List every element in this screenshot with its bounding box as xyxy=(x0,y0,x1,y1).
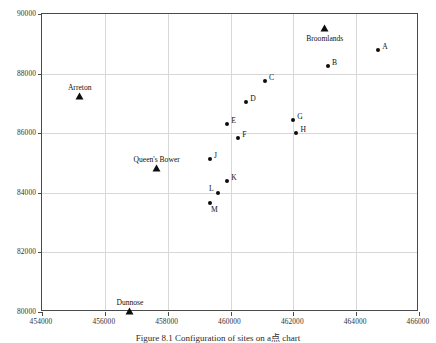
y-axis-tick-label: 86000 xyxy=(0,128,36,137)
y-axis-tick xyxy=(38,312,42,313)
y-axis-tick xyxy=(38,74,42,75)
data-point-label-L: L xyxy=(209,184,214,193)
x-axis-tick-label: 466000 xyxy=(388,317,436,326)
data-point-K xyxy=(225,179,229,183)
x-axis-tick xyxy=(356,312,357,316)
gridline-horizontal xyxy=(42,74,417,75)
figure-caption: Figure 8.1 Configuration of sites on a点 … xyxy=(0,331,436,343)
x-axis-tick-label: 460000 xyxy=(200,317,260,326)
data-point-F xyxy=(236,136,240,140)
y-axis-tick xyxy=(38,252,42,253)
y-axis-tick-label: 80000 xyxy=(0,307,36,316)
data-point-label-K: K xyxy=(231,173,236,182)
x-axis-tick xyxy=(168,312,169,316)
settlement-label-queen-s-bower: Queen's Bower xyxy=(134,155,180,164)
data-point-C xyxy=(263,79,267,83)
x-axis-tick-label: 456000 xyxy=(74,317,134,326)
data-point-H xyxy=(294,131,298,135)
data-point-label-F: F xyxy=(242,130,246,139)
settlement-label-arreton: Arreton xyxy=(68,83,92,92)
data-point-label-B: B xyxy=(332,58,337,67)
x-axis-tick xyxy=(105,312,106,316)
gridline-vertical xyxy=(231,14,232,310)
data-point-E xyxy=(225,122,229,126)
data-point-label-M: M xyxy=(211,205,218,214)
data-point-label-H: H xyxy=(300,125,305,134)
plot-area: ABCDEFGHJKLMArretonBroomlandsQueen's Bow… xyxy=(41,13,418,311)
data-point-D xyxy=(244,100,248,104)
x-axis-tick-label: 458000 xyxy=(137,317,197,326)
y-axis-tick xyxy=(38,14,42,15)
data-point-L xyxy=(216,191,220,195)
x-axis-tick-label: 462000 xyxy=(262,317,322,326)
data-point-label-J: J xyxy=(214,151,217,160)
figure-scatter-plot: ABCDEFGHJKLMArretonBroomlandsQueen's Bow… xyxy=(0,0,436,343)
data-point-label-G: G xyxy=(297,112,302,121)
gridline-vertical xyxy=(105,14,106,310)
data-point-B xyxy=(326,64,330,68)
gridline-horizontal xyxy=(42,193,417,194)
settlement-marker-broomlands xyxy=(320,24,328,31)
y-axis-tick xyxy=(38,193,42,194)
settlement-marker-queen-s-bower xyxy=(152,164,160,171)
gridline-horizontal xyxy=(42,252,417,253)
x-axis-tick xyxy=(419,312,420,316)
y-axis-tick-label: 84000 xyxy=(0,188,36,197)
data-point-G xyxy=(291,118,295,122)
y-axis-tick-label: 88000 xyxy=(0,69,36,78)
settlement-label-broomlands: Broomlands xyxy=(306,34,343,43)
settlement-marker-arreton xyxy=(75,93,83,100)
x-axis-tick-label: 454000 xyxy=(11,317,71,326)
y-axis-tick-label: 90000 xyxy=(0,9,36,18)
x-axis-tick-label: 464000 xyxy=(325,317,385,326)
gridline-vertical xyxy=(293,14,294,310)
data-point-label-C: C xyxy=(269,73,274,82)
data-point-label-A: A xyxy=(382,42,387,51)
settlement-marker-dunnose xyxy=(125,308,133,315)
data-point-A xyxy=(376,48,380,52)
data-point-label-D: D xyxy=(250,94,255,103)
gridline-vertical xyxy=(356,14,357,310)
y-axis-tick xyxy=(38,133,42,134)
x-axis-tick xyxy=(42,312,43,316)
x-axis-tick xyxy=(231,312,232,316)
data-point-J xyxy=(208,157,212,161)
settlement-label-dunnose: Dunnose xyxy=(116,298,143,307)
y-axis-tick-label: 82000 xyxy=(0,247,36,256)
data-point-label-E: E xyxy=(231,116,236,125)
x-axis-tick xyxy=(293,312,294,316)
gridline-horizontal xyxy=(42,133,417,134)
